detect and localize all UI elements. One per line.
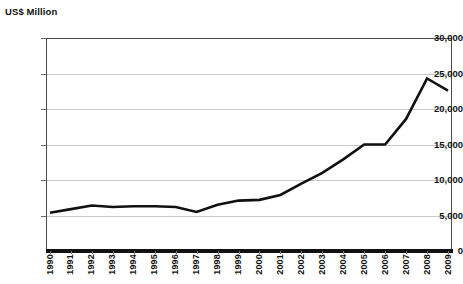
x-tick-mark xyxy=(239,251,240,254)
y-tick-label: 30,000 xyxy=(421,33,463,43)
x-tick-label: 1990 xyxy=(45,254,56,275)
x-tick-mark xyxy=(448,251,449,254)
x-tick-mark xyxy=(427,251,428,254)
x-tick-label: 2004 xyxy=(338,254,349,275)
gridline xyxy=(47,216,451,217)
x-tick-mark xyxy=(176,251,177,254)
x-tick-label: 2005 xyxy=(359,254,370,275)
x-tick-mark xyxy=(155,251,156,254)
x-tick-mark xyxy=(259,251,260,254)
y-tick-mark xyxy=(41,38,46,39)
x-tick-mark xyxy=(280,251,281,254)
x-tick-mark xyxy=(113,251,114,254)
x-tick-mark xyxy=(92,251,93,254)
x-tick-label: 2006 xyxy=(380,254,391,275)
x-tick-label: 1999 xyxy=(233,254,244,275)
x-tick-label: 1997 xyxy=(191,254,202,275)
gridline xyxy=(47,109,451,110)
x-tick-label: 2001 xyxy=(275,254,286,275)
x-tick-mark xyxy=(50,251,51,254)
x-tick-mark xyxy=(71,251,72,254)
y-tick-mark xyxy=(41,145,46,146)
x-tick-label: 1998 xyxy=(212,254,223,275)
x-tick-mark xyxy=(301,251,302,254)
y-axis-title: US$ Million xyxy=(5,6,57,17)
y-tick-label: 20,000 xyxy=(421,104,463,114)
x-tick-label: 2007 xyxy=(401,254,412,275)
x-tick-label: 2003 xyxy=(317,254,328,275)
y-tick-mark xyxy=(41,74,46,75)
x-tick-mark xyxy=(343,251,344,254)
gridline xyxy=(47,74,451,75)
x-tick-mark xyxy=(364,251,365,254)
x-tick-label: 1993 xyxy=(107,254,118,275)
line-chart: US$ Million 05,00010,00015,00020,00025,0… xyxy=(0,0,463,284)
x-tick-label: 2002 xyxy=(296,254,307,275)
gridline xyxy=(47,145,451,146)
y-tick-label: 10,000 xyxy=(421,175,463,185)
x-tick-mark xyxy=(322,251,323,254)
x-tick-label: 2008 xyxy=(422,254,433,275)
x-tick-mark xyxy=(406,251,407,254)
gridline xyxy=(47,180,451,181)
x-tick-mark xyxy=(134,251,135,254)
x-tick-label: 1996 xyxy=(170,254,181,275)
x-axis-rule xyxy=(46,249,453,253)
x-tick-label: 1995 xyxy=(149,254,160,275)
x-tick-mark xyxy=(385,251,386,254)
y-tick-label: 25,000 xyxy=(421,69,463,79)
x-tick-mark xyxy=(197,251,198,254)
x-tick-label: 1994 xyxy=(128,254,139,275)
y-tick-mark xyxy=(41,180,46,181)
y-tick-label: 5,000 xyxy=(421,211,463,221)
y-tick-mark xyxy=(41,216,46,217)
x-tick-label: 1992 xyxy=(86,254,97,275)
x-tick-label: 2000 xyxy=(254,254,265,275)
plot-area xyxy=(46,38,452,251)
x-tick-label: 2009 xyxy=(443,254,454,275)
y-tick-label: 15,000 xyxy=(421,140,463,150)
y-tick-mark xyxy=(41,109,46,110)
x-tick-mark xyxy=(218,251,219,254)
x-tick-label: 1991 xyxy=(65,254,76,275)
